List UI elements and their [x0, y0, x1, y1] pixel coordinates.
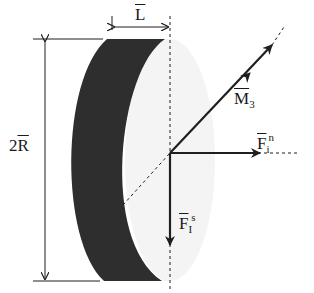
normal-force-label: Fin: [257, 132, 274, 155]
diameter-label: 2R: [9, 137, 29, 154]
moment-symbol: M: [234, 89, 249, 108]
disc-force-diagram: L 2R M3 Fin FIs: [0, 0, 314, 293]
normal-force-subscript: i: [266, 143, 269, 155]
length-label: L: [135, 6, 145, 23]
diameter-coef: 2: [9, 136, 18, 155]
diameter-symbol: R: [18, 136, 29, 155]
moment-subscript: 3: [249, 98, 255, 110]
normal-force-superscript: n: [269, 131, 275, 143]
tangential-force-superscript: s: [191, 211, 195, 223]
tangential-force-label: FIs: [179, 212, 195, 235]
tangential-force-subscript: I: [188, 223, 192, 235]
moment-label: M3: [234, 90, 255, 110]
length-symbol: L: [135, 5, 145, 24]
